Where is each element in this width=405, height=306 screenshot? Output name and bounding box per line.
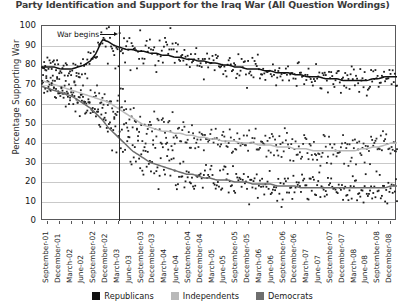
- data-point: [71, 70, 73, 72]
- data-point: [313, 141, 315, 143]
- data-point: [116, 152, 118, 154]
- x-axis-tick-mark: [177, 221, 178, 224]
- data-point: [141, 140, 143, 142]
- data-point: [132, 45, 134, 47]
- data-point: [324, 72, 326, 74]
- data-point: [173, 48, 175, 50]
- data-point: [168, 120, 170, 122]
- data-point: [359, 152, 361, 154]
- data-point: [223, 66, 225, 68]
- data-point: [362, 77, 364, 79]
- data-point: [353, 186, 355, 188]
- data-point: [387, 182, 389, 184]
- data-point: [193, 188, 195, 190]
- legend-item-republicans[interactable]: Republicans: [92, 291, 153, 301]
- data-point: [291, 198, 293, 200]
- x-axis-tick-label: March-06: [254, 249, 263, 283]
- data-point: [121, 106, 123, 108]
- data-point: [273, 154, 275, 156]
- data-point: [339, 82, 341, 84]
- data-point: [194, 185, 196, 187]
- data-layer: [42, 26, 397, 221]
- data-point: [348, 199, 350, 201]
- data-point: [355, 75, 357, 77]
- data-point: [341, 143, 343, 145]
- data-point: [346, 194, 348, 196]
- data-point: [143, 63, 145, 65]
- data-point: [139, 29, 141, 31]
- x-axis-tick-mark: [248, 221, 249, 224]
- data-point: [239, 138, 241, 140]
- data-point: [379, 174, 381, 176]
- data-point: [342, 134, 344, 136]
- data-point: [191, 124, 193, 126]
- data-point: [136, 68, 138, 70]
- data-point: [255, 63, 257, 65]
- data-point: [174, 62, 176, 64]
- data-point: [167, 149, 169, 151]
- data-point: [194, 53, 196, 55]
- data-point: [232, 165, 234, 167]
- data-point: [319, 165, 321, 167]
- data-point: [330, 71, 332, 73]
- data-point: [364, 71, 366, 73]
- data-point: [200, 173, 202, 175]
- data-point: [330, 178, 332, 180]
- data-point: [133, 157, 135, 159]
- data-point: [199, 65, 201, 67]
- data-point: [72, 103, 74, 105]
- data-point: [186, 142, 188, 144]
- data-point: [278, 67, 280, 69]
- data-point: [56, 59, 58, 61]
- data-point: [185, 180, 187, 182]
- data-point: [193, 137, 195, 139]
- data-point: [188, 171, 190, 173]
- data-point: [79, 115, 81, 117]
- data-point: [99, 126, 101, 128]
- data-point: [315, 63, 317, 65]
- data-point: [165, 41, 167, 43]
- data-point: [263, 73, 265, 75]
- data-point: [267, 140, 269, 142]
- data-point: [106, 28, 108, 30]
- data-point: [122, 151, 124, 153]
- data-point: [108, 26, 110, 28]
- data-point: [132, 144, 134, 146]
- data-point: [205, 164, 207, 166]
- x-axis-tick-label: June-05: [218, 255, 227, 283]
- data-point: [141, 58, 143, 60]
- legend-label: Independents: [183, 291, 239, 301]
- data-point: [52, 80, 54, 82]
- data-point: [70, 87, 72, 89]
- data-point: [120, 88, 122, 90]
- data-point: [385, 133, 387, 135]
- data-point: [144, 146, 146, 148]
- data-point: [377, 75, 379, 77]
- legend-item-independents[interactable]: Independents: [171, 291, 239, 301]
- data-point: [202, 134, 204, 136]
- x-axis-tick-mark: [94, 221, 95, 224]
- data-point: [100, 102, 102, 104]
- data-point: [226, 76, 228, 78]
- data-point: [178, 176, 180, 178]
- data-point: [353, 147, 355, 149]
- legend-swatch-independents: [171, 292, 179, 300]
- data-point: [301, 156, 303, 158]
- data-point: [309, 143, 311, 145]
- data-point: [146, 133, 148, 135]
- data-point: [344, 72, 346, 74]
- data-point: [296, 181, 298, 183]
- legend-item-democrats[interactable]: Democrats: [256, 291, 313, 301]
- data-point: [200, 62, 202, 64]
- data-point: [150, 171, 152, 173]
- data-point: [170, 27, 172, 29]
- data-point: [354, 139, 356, 141]
- data-point: [382, 130, 384, 132]
- data-point: [135, 161, 137, 163]
- data-point: [216, 184, 218, 186]
- data-point: [126, 40, 128, 42]
- legend-swatch-republicans: [92, 292, 100, 300]
- data-point: [148, 124, 150, 126]
- data-point: [80, 63, 82, 65]
- data-point: [55, 88, 57, 90]
